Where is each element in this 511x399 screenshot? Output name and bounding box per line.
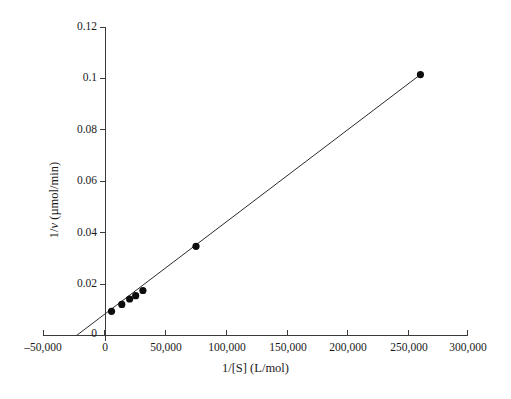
x-tick-label: 100,000 [208,342,245,354]
y-axis-title: 1/v (µmol/min) [47,161,62,237]
x-tick-label: 300,000 [449,342,486,354]
data-point [108,308,115,315]
x-axis-title: 1/[S] (L/mol) [0,361,511,376]
x-tick-label: 0 [102,342,108,354]
lineweaver-burk-chart: –50,000 0 50,000 100,000 150,000 200,000… [0,0,511,399]
data-point [139,287,146,294]
x-axis-ticks [44,330,468,336]
data-point [126,295,133,302]
x-tick-label: –50,000 [24,342,61,354]
data-point [192,243,199,250]
y-tick-label: 0.08 [77,124,97,136]
data-point [417,71,424,78]
x-axis-title-text: 1/[S] (L/mol) [222,361,289,375]
plot-area [0,0,511,399]
x-tick-label: 250,000 [390,342,427,354]
y-tick-label: 0.04 [77,227,97,239]
data-point [118,301,125,308]
y-axis-title-pre: 1/ [47,228,61,238]
y-tick-label: 0.06 [77,175,97,187]
x-tick-label: 50,000 [150,342,182,354]
y-axis-ticks [100,27,106,336]
x-tick-label: 150,000 [269,342,306,354]
x-tick-label: 200,000 [329,342,366,354]
y-axis-title-post: (µmol/min) [47,161,61,222]
y-tick-label: 0 [91,328,97,340]
y-axis-title-variable: v [47,222,61,228]
y-tick-label: 0.12 [77,21,97,33]
y-tick-label: 0.1 [83,72,97,84]
y-tick-label: 0.02 [77,278,97,290]
data-point [132,292,139,299]
